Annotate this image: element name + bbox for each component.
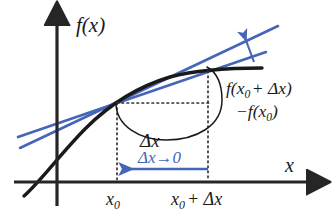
rise-label-line2-suffix: )	[271, 101, 278, 121]
rise-label-line2-prefix: −f(x	[236, 101, 266, 121]
y-axis-label-text: f(x)	[76, 13, 105, 37]
tick-label-x0-base: x	[105, 189, 114, 209]
rise-label-line1-suffix: + Δx)	[252, 78, 292, 98]
tick-label-x0-plus-dx: x0+ Δx	[170, 189, 222, 212]
tick-label-x0-plus-dx-sub: 0	[179, 198, 185, 212]
rise-label-line1-sub: 0	[244, 88, 250, 100]
figure-canvas: f(x) x x0 x0+ Δx Δx Δx→0 f(x0+ Δx) −f(x0…	[0, 0, 332, 214]
x-axis-label-text: x	[284, 154, 294, 176]
tick-label-x0-sub: 0	[114, 198, 120, 212]
rise-label-line1: f(x0+ Δx)	[226, 78, 292, 100]
rise-label-line1-prefix: f(x	[226, 78, 245, 98]
rise-label-line2: −f(x0)	[236, 101, 278, 123]
tick-label-x0: x0	[105, 189, 120, 212]
tick-label-x0-plus-dx-base: x	[170, 189, 179, 209]
limit-arrow-label-text: Δx→0	[137, 148, 182, 167]
x-axis-label: x	[284, 154, 294, 176]
tick-label-x0-plus-dx-tail: + Δx	[187, 189, 222, 209]
limit-arrow-label: Δx→0	[137, 148, 182, 167]
derivative-limit-figure: f(x) x x0 x0+ Δx Δx Δx→0 f(x0+ Δx) −f(x0…	[0, 0, 332, 214]
y-axis-label: f(x)	[76, 13, 105, 37]
